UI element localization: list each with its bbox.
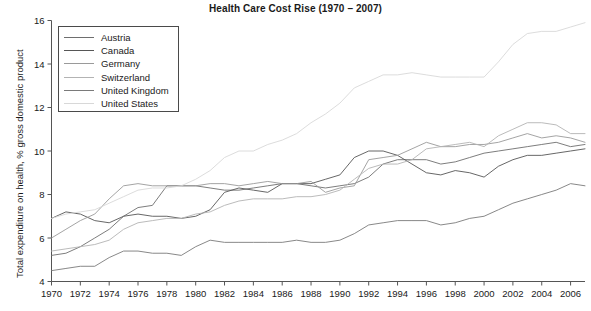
series-line-united-kingdom <box>52 184 586 271</box>
x-tick-label: 2002 <box>502 288 523 299</box>
x-tick-label: 1996 <box>416 288 437 299</box>
x-tick-label: 1988 <box>300 288 321 299</box>
series-line-austria <box>52 142 586 255</box>
x-tick-label: 1978 <box>156 288 177 299</box>
x-tick-label: 1976 <box>127 288 148 299</box>
y-tick-label: 4 <box>39 276 44 287</box>
series-line-germany <box>52 134 586 238</box>
y-tick-label: 14 <box>34 59 45 70</box>
legend-item[interactable]: Germany <box>59 57 178 70</box>
y-tick-label: 6 <box>39 233 44 244</box>
legend-item[interactable]: United States <box>59 97 178 110</box>
y-tick-label: 12 <box>34 102 45 113</box>
legend-item-label: United States <box>101 97 158 110</box>
x-tick-label: 1974 <box>99 288 120 299</box>
x-tick-label: 1998 <box>445 288 466 299</box>
y-tick-label: 8 <box>39 189 44 200</box>
legend-item[interactable]: Canada <box>59 44 178 57</box>
legend-item[interactable]: Austria <box>59 31 178 44</box>
x-tick-label: 2000 <box>473 288 494 299</box>
legend-item-label: United Kingdom <box>101 84 169 97</box>
y-tick-label: 16 <box>34 15 45 26</box>
x-tick-label: 2006 <box>560 288 581 299</box>
legend-item-label: Switzerland <box>101 71 150 84</box>
x-tick-label: 1980 <box>185 288 206 299</box>
x-tick-label: 1990 <box>329 288 350 299</box>
x-tick-label: 1982 <box>214 288 235 299</box>
legend-line-swatch <box>64 77 94 78</box>
legend-line-swatch <box>64 63 94 64</box>
legend-item[interactable]: United Kingdom <box>59 84 178 97</box>
legend-item-label: Austria <box>101 31 131 44</box>
chart-container: Health Care Cost Rise (1970 – 2007) Tota… <box>0 0 591 311</box>
chart-legend: AustriaCanadaGermanySwitzerlandUnited Ki… <box>58 26 179 112</box>
x-tick-label: 1986 <box>272 288 293 299</box>
x-tick-label: 1972 <box>70 288 91 299</box>
legend-line-swatch <box>64 103 94 104</box>
y-tick-label: 10 <box>34 146 45 157</box>
x-tick-label: 1992 <box>358 288 379 299</box>
x-tick-label: 1994 <box>387 288 408 299</box>
legend-item-label: Canada <box>101 44 134 57</box>
x-tick-label: 2004 <box>531 288 552 299</box>
legend-line-swatch <box>64 90 94 91</box>
x-tick-label: 1984 <box>243 288 264 299</box>
x-tick-label: 1970 <box>41 288 62 299</box>
legend-item-label: Germany <box>101 57 140 70</box>
legend-item[interactable]: Switzerland <box>59 71 178 84</box>
legend-line-swatch <box>64 50 94 51</box>
legend-line-swatch <box>64 37 94 38</box>
